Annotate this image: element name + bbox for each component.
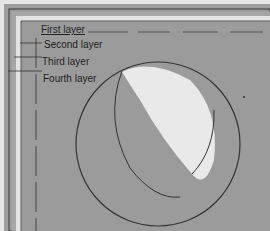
dot <box>243 96 245 98</box>
layers-diagram: First layer Second layer Third layer Fou… <box>0 0 270 231</box>
first-layer-label: First layer <box>41 24 85 35</box>
third-layer-label: Third layer <box>42 56 89 67</box>
fourth-layer-label: Fourth layer <box>43 73 96 84</box>
layer-band-4 <box>21 21 270 231</box>
second-layer-label: Second layer <box>44 39 102 50</box>
